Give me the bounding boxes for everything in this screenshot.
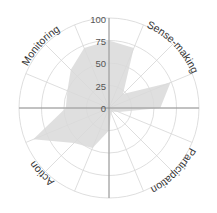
- tick-0: 0: [101, 103, 106, 114]
- label-participation: Participation: [149, 146, 199, 196]
- radar-chart: 0 25 50 75 100 Sense-making Participatio…: [0, 0, 217, 213]
- tick-75: 75: [95, 36, 106, 47]
- tick-25: 25: [95, 81, 106, 92]
- data-area: [33, 41, 170, 148]
- tick-100: 100: [90, 14, 106, 25]
- tick-50: 50: [95, 58, 106, 69]
- label-monitoring: Monitoring: [19, 22, 62, 67]
- label-sense-making: Sense-making: [145, 18, 201, 75]
- label-action: Action: [26, 159, 56, 189]
- grid-spoke: [109, 108, 173, 172]
